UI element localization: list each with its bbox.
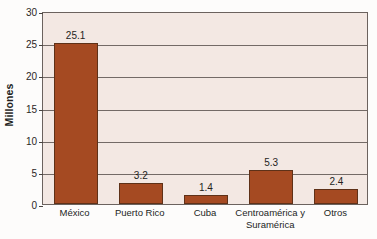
bar-slot: 25.1 [43, 13, 108, 204]
y-axis-title: Millones [0, 0, 18, 210]
bar[interactable] [54, 43, 98, 204]
bar[interactable] [249, 170, 293, 204]
bar-value-label: 5.3 [264, 157, 278, 168]
y-axis-tick-labels: 302520151050 [18, 0, 40, 239]
y-tick-label: 25 [26, 39, 37, 50]
bar[interactable] [119, 183, 163, 204]
y-tick-label: 10 [26, 135, 37, 146]
bar-slot: 1.4 [173, 13, 238, 204]
y-tick-label: 5 [31, 167, 37, 178]
bars-layer: 25.13.21.45.32.4 [43, 13, 367, 204]
y-tick-label: 30 [26, 7, 37, 18]
bar[interactable] [184, 195, 228, 204]
bar-value-label: 2.4 [329, 176, 343, 187]
bar-value-label: 25.1 [66, 30, 85, 41]
bar-value-label: 1.4 [199, 182, 213, 193]
y-tick-label: 20 [26, 71, 37, 82]
bar-slot: 3.2 [108, 13, 173, 204]
bar-slot: 2.4 [304, 13, 369, 204]
y-axis-title-text: Millones [3, 84, 15, 127]
plot-area: 25.13.21.45.32.4 [42, 12, 368, 205]
bar-chart: Millones 302520151050 25.13.21.45.32.4 M… [0, 0, 377, 239]
bar-value-label: 3.2 [134, 170, 148, 181]
bar-slot: 5.3 [239, 13, 304, 204]
bar[interactable] [314, 189, 358, 204]
x-axis-label: Otros [290, 207, 377, 219]
y-tick-label: 15 [26, 103, 37, 114]
x-axis-category-labels: MéxicoPuerto RicoCubaCentroamérica y Sur… [42, 206, 368, 239]
